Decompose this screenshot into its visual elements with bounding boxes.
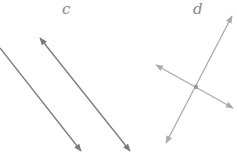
figure-c-line-1 bbox=[0, 48, 81, 151]
diagram-canvas: c d bbox=[0, 0, 237, 159]
figure-d-line-2 bbox=[166, 16, 232, 143]
figure-d: d bbox=[156, 0, 233, 143]
intersection-point bbox=[194, 85, 198, 89]
figure-d-label: d bbox=[193, 0, 203, 18]
figure-c-line-2 bbox=[40, 38, 130, 151]
figure-c: c bbox=[0, 0, 130, 151]
figure-c-label: c bbox=[62, 0, 71, 18]
